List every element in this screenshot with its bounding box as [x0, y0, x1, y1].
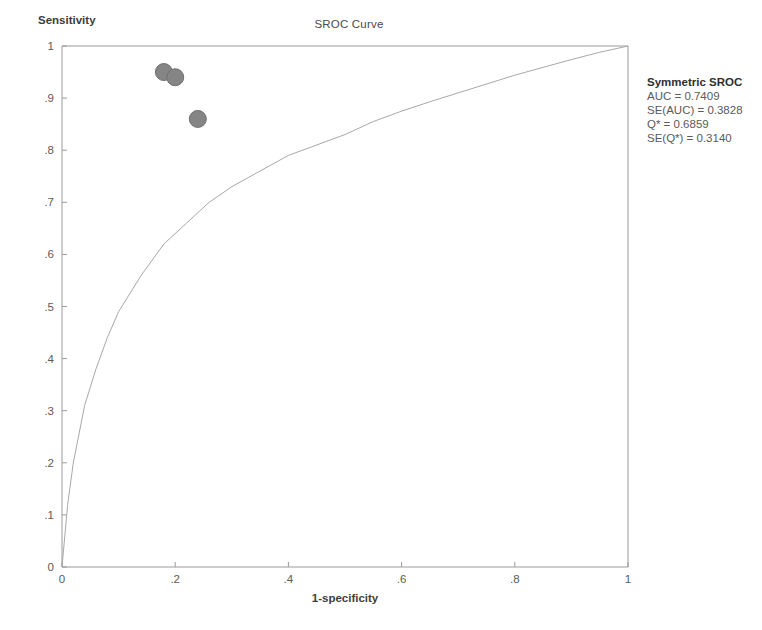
axis-ticks: [62, 46, 628, 567]
y-tick-label: .4: [28, 353, 54, 365]
x-tick-label: .8: [510, 573, 520, 585]
legend-stat-lines: AUC = 0.7409SE(AUC) = 0.3828Q* = 0.6859S…: [647, 89, 759, 145]
y-tick-label: .1: [28, 509, 54, 521]
axes: [62, 46, 628, 567]
y-tick-label: .9: [28, 92, 54, 104]
x-tick-label: .2: [170, 573, 180, 585]
x-tick-label: .6: [397, 573, 407, 585]
y-tick-label: .5: [28, 301, 54, 313]
x-axis-title: 1-specificity: [312, 592, 378, 604]
sroc-stats-legend: Symmetric SROC AUC = 0.7409SE(AUC) = 0.3…: [647, 76, 759, 145]
x-tick-label: 1: [625, 573, 631, 585]
chart-title: SROC Curve: [314, 18, 383, 30]
legend-stat-line: Q* = 0.6859: [647, 117, 759, 131]
legend-stat-line: SE(AUC) = 0.3828: [647, 103, 759, 117]
sroc-figure: Sensitivity SROC Curve 1-specificity 0.2…: [0, 0, 762, 630]
y-tick-label: .3: [28, 405, 54, 417]
legend-stat-line: SE(Q*) = 0.3140: [647, 131, 759, 145]
y-tick-label: .8: [28, 144, 54, 156]
x-tick-label: .4: [284, 573, 294, 585]
y-axis-title: Sensitivity: [38, 14, 96, 26]
y-tick-label: .7: [28, 196, 54, 208]
legend-stat-line: AUC = 0.7409: [647, 89, 759, 103]
y-tick-label: .2: [28, 457, 54, 469]
study-markers: [155, 64, 206, 128]
y-tick-label: 1: [28, 40, 54, 52]
study-point-marker: [167, 69, 184, 86]
y-tick-label: 0: [28, 561, 54, 573]
study-point-marker: [189, 110, 206, 127]
legend-title: Symmetric SROC: [647, 76, 759, 88]
y-tick-label: .6: [28, 248, 54, 260]
sroc-curve-line: [62, 46, 628, 567]
x-tick-label: 0: [59, 573, 65, 585]
